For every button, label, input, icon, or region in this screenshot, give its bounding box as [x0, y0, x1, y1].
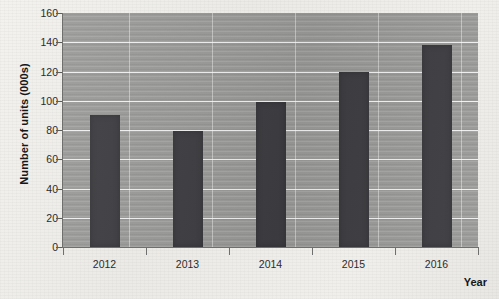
bar-2014[interactable]	[256, 102, 286, 247]
x-tick-label-2012: 2012	[75, 258, 135, 270]
gridline-x-2016	[461, 13, 462, 247]
y-axis-tick-labels: 020406080100120140160	[20, 0, 58, 299]
y-tick-label-0: 0	[24, 242, 58, 252]
gridline-x-2013	[212, 13, 213, 247]
plot-area	[63, 13, 478, 247]
y-tick-label-60: 60	[24, 154, 58, 164]
x-tick-label-2013: 2013	[158, 258, 218, 270]
x-tick-mark-0	[63, 248, 64, 255]
y-tick-label-80: 80	[24, 125, 58, 135]
gridline-y-140	[63, 42, 478, 43]
y-tick-label-120: 120	[24, 67, 58, 77]
y-tick-label-100: 100	[24, 96, 58, 106]
gridline-x-2014	[295, 13, 296, 247]
bar-2016[interactable]	[422, 45, 452, 247]
y-tick-label-40: 40	[24, 184, 58, 194]
bar-2012[interactable]	[90, 115, 120, 247]
gridline-y-120	[63, 72, 478, 73]
bar-2015[interactable]	[339, 72, 369, 247]
y-tick-label-20: 20	[24, 213, 58, 223]
x-tick-label-2016: 2016	[407, 258, 467, 270]
y-tick-label-140: 140	[24, 37, 58, 47]
x-tick-mark-3	[312, 248, 313, 255]
bar-chart: Number of units (000s) 02040608010012014…	[0, 0, 499, 299]
x-tick-mark-1	[146, 248, 147, 255]
x-axis-line	[62, 247, 479, 248]
x-axis-title: Year	[464, 276, 487, 288]
gridline-x-2012	[129, 13, 130, 247]
bar-2013[interactable]	[173, 131, 203, 247]
y-tick-label-160: 160	[24, 8, 58, 18]
x-tick-label-2015: 2015	[324, 258, 384, 270]
x-tick-mark-end	[478, 248, 479, 255]
y-axis-line	[62, 13, 63, 248]
x-tick-mark-2	[229, 248, 230, 255]
x-tick-mark-4	[395, 248, 396, 255]
gridline-x-2015	[378, 13, 379, 247]
x-tick-label-2014: 2014	[241, 258, 301, 270]
